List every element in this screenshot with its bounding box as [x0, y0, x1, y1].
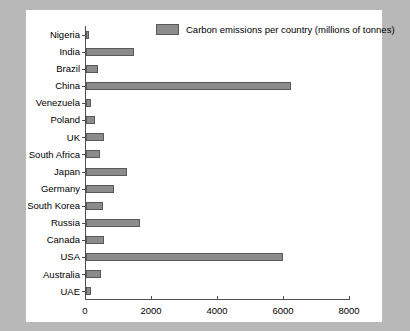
x-tick-mark — [85, 296, 86, 300]
y-tick-mark — [82, 223, 85, 224]
y-tick-mark — [82, 291, 85, 292]
y-axis-label-germany: Germany — [41, 184, 80, 194]
bar-nigeria — [86, 31, 89, 39]
bar-china — [86, 82, 291, 90]
bar-south-africa — [86, 150, 100, 158]
bar-row: South Africa — [85, 146, 349, 162]
bar-row: India — [85, 44, 349, 60]
bar-south-korea — [86, 202, 103, 210]
y-tick-mark — [82, 69, 85, 70]
y-axis-label-poland: Poland — [50, 115, 80, 125]
bar-row: Japan — [85, 164, 349, 180]
bar-uae — [86, 287, 91, 295]
y-tick-mark — [82, 52, 85, 53]
y-tick-mark — [82, 86, 85, 87]
x-tick-mark — [349, 296, 350, 300]
bar-row: Venezuela — [85, 95, 349, 111]
y-tick-mark — [82, 189, 85, 190]
x-tick-mark — [283, 296, 284, 300]
x-tick-mark — [151, 296, 152, 300]
y-tick-mark — [82, 274, 85, 275]
y-axis-label-uae: UAE — [60, 287, 80, 297]
y-axis-label-south-korea: South Korea — [27, 201, 80, 211]
y-axis-label-venezuela: Venezuela — [36, 98, 80, 108]
bar-row: South Korea — [85, 198, 349, 214]
bar-brazil — [86, 65, 98, 73]
bar-australia — [86, 270, 101, 278]
y-tick-mark — [82, 257, 85, 258]
x-tick-label-2000: 2000 — [140, 305, 161, 316]
bar-japan — [86, 168, 127, 176]
bar-row: UK — [85, 129, 349, 145]
y-tick-mark — [82, 172, 85, 173]
y-tick-mark — [82, 120, 85, 121]
y-axis-label-usa: USA — [60, 252, 80, 262]
bar-row: Nigeria — [85, 27, 349, 43]
y-axis-label-nigeria: Nigeria — [50, 30, 80, 40]
bar-row: Russia — [85, 215, 349, 231]
bar-canada — [86, 236, 104, 244]
x-tick-label-6000: 6000 — [272, 305, 293, 316]
plot-area: NigeriaIndiaBrazilChinaVenezuelaPolandUK… — [85, 26, 349, 300]
y-axis-label-china: China — [55, 81, 80, 91]
bar-germany — [86, 185, 114, 193]
x-tick-label-0: 0 — [82, 305, 87, 316]
x-tick-label-4000: 4000 — [206, 305, 227, 316]
y-axis-label-australia: Australia — [43, 270, 80, 280]
x-tick-label-8000: 8000 — [338, 305, 359, 316]
y-axis-label-india: India — [59, 47, 80, 57]
y-tick-mark — [82, 103, 85, 104]
bar-row: Brazil — [85, 61, 349, 77]
bar-row: Australia — [85, 266, 349, 282]
bar-poland — [86, 116, 95, 124]
y-tick-mark — [82, 240, 85, 241]
y-axis-label-canada: Canada — [47, 235, 80, 245]
y-axis-label-uk: UK — [67, 133, 80, 143]
bar-row: USA — [85, 249, 349, 265]
bar-rows: NigeriaIndiaBrazilChinaVenezuelaPolandUK… — [85, 26, 349, 300]
bar-india — [86, 48, 134, 56]
bar-row: Germany — [85, 181, 349, 197]
y-tick-mark — [82, 154, 85, 155]
y-axis-label-south-africa: South Africa — [29, 150, 80, 160]
bar-row: Poland — [85, 112, 349, 128]
bar-usa — [86, 253, 283, 261]
bar-venezuela — [86, 99, 91, 107]
chart-figure: Carbon emissions per country (millions o… — [26, 10, 382, 322]
bar-row: Canada — [85, 232, 349, 248]
x-tick-mark — [217, 296, 218, 300]
y-tick-mark — [82, 206, 85, 207]
bar-uk — [86, 133, 104, 141]
y-axis-label-russia: Russia — [51, 218, 80, 228]
y-tick-mark — [82, 35, 85, 36]
y-tick-mark — [82, 137, 85, 138]
y-axis-label-japan: Japan — [54, 167, 80, 177]
bar-russia — [86, 219, 140, 227]
y-axis-label-brazil: Brazil — [56, 64, 80, 74]
bar-row: China — [85, 78, 349, 94]
